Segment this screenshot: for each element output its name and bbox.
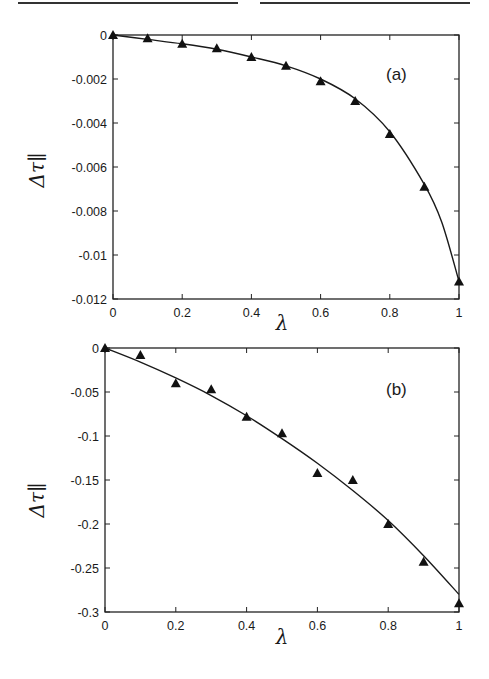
triangle-marker-icon <box>212 43 222 52</box>
x-tick-label: 0.6 <box>309 619 326 633</box>
x-tick-label: 1 <box>456 619 463 633</box>
y-tick-label: -0.1 <box>77 430 99 444</box>
x-tick-label: 0.2 <box>167 619 184 633</box>
x-tick-label: 0.4 <box>243 306 260 320</box>
x-tick-label: 0.2 <box>174 306 191 320</box>
triangle-marker-icon <box>312 468 322 477</box>
x-axis-title: λ <box>275 311 289 335</box>
x-axis-title: λ <box>275 625 289 649</box>
x-tick-label: 0.4 <box>238 619 255 633</box>
y-tick-label: -0.008 <box>72 205 107 219</box>
figure: 00.20.40.60.810-0.002-0.004-0.006-0.008-… <box>0 0 489 679</box>
y-tick-label: -0.006 <box>72 161 107 175</box>
y-tick-label: -0.3 <box>77 606 99 620</box>
triangle-marker-icon <box>348 475 358 484</box>
y-tick-label: -0.25 <box>71 562 100 576</box>
y-tick-label: -0.15 <box>71 474 100 488</box>
y-axis-title: Δτ∥ <box>25 483 49 519</box>
triangle-marker-icon <box>206 384 216 393</box>
x-tick-label: 0 <box>110 306 117 320</box>
y-tick-label: -0.004 <box>72 117 107 131</box>
y-tick-label: -0.002 <box>72 73 107 87</box>
panel-label: (b) <box>386 380 407 399</box>
x-tick-label: 0.6 <box>312 306 329 320</box>
triangle-marker-icon <box>385 129 395 138</box>
x-tick-label: 0.8 <box>381 306 398 320</box>
y-tick-label: -0.05 <box>71 386 100 400</box>
triangle-marker-icon <box>419 182 429 191</box>
plot-frame <box>113 35 459 299</box>
chart-panel-b: 00.20.40.60.810-0.05-0.1-0.15-0.2-0.25-0… <box>25 342 464 650</box>
chart-panel-a: 00.20.40.60.810-0.002-0.004-0.006-0.008-… <box>25 29 464 336</box>
x-tick-label: 0 <box>102 619 109 633</box>
y-tick-label: -0.2 <box>77 518 99 532</box>
triangle-marker-icon <box>135 350 145 359</box>
y-tick-label: 0 <box>92 342 99 356</box>
y-tick-label: -0.01 <box>79 249 108 263</box>
triangle-marker-icon <box>350 96 360 105</box>
y-tick-label: 0 <box>100 29 107 43</box>
triangle-marker-icon <box>454 598 464 607</box>
triangle-marker-icon <box>419 557 429 566</box>
x-tick-label: 0.8 <box>380 619 397 633</box>
triangle-marker-icon <box>454 276 464 285</box>
y-tick-label: -0.012 <box>72 293 107 307</box>
x-tick-label: 1 <box>456 306 463 320</box>
y-axis-title: Δτ∥ <box>25 153 49 189</box>
triangle-marker-icon <box>277 428 287 437</box>
fit-curve <box>113 35 459 281</box>
panel-label: (a) <box>386 65 407 84</box>
